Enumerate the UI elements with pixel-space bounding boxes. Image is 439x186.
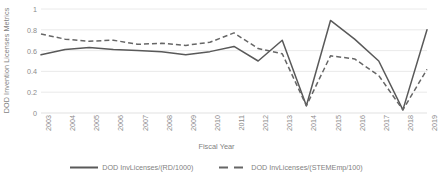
x-tick-label: 2010 [213, 115, 222, 131]
y-tick-label: 1 [33, 5, 37, 14]
x-tick-label: 2004 [68, 115, 77, 131]
legend-swatch-dashed-icon [219, 164, 247, 171]
x-tick-label: 2018 [406, 115, 415, 131]
x-tick-label: 2003 [44, 115, 53, 131]
x-tick-label: 2011 [237, 115, 246, 130]
x-tick-label: 2014 [309, 115, 318, 131]
x-tick-label: 2019 [430, 115, 439, 131]
plot-svg [41, 9, 427, 113]
plot-area [41, 9, 427, 113]
x-tick-label: 2007 [141, 115, 150, 131]
legend-swatch-solid-icon [70, 164, 98, 171]
x-tick-label: 2012 [261, 115, 270, 131]
legend-label-solid: DOD InvLicenses/(RD/1000) [102, 163, 193, 172]
y-tick-label: 0 [33, 109, 37, 118]
legend-label-dashed: DOD InvLicenses/(STEMEmp/100) [251, 163, 362, 172]
x-tick-label: 2016 [358, 115, 367, 131]
y-tick-label: 0.6 [27, 46, 37, 55]
x-tick-label: 2005 [92, 115, 101, 131]
y-tick-label: 0.4 [27, 67, 37, 76]
x-tick-label: 2015 [334, 115, 343, 131]
gridlines [41, 9, 427, 113]
x-tick-label: 2009 [189, 115, 198, 131]
legend-entry-dashed[interactable]: DOD InvLicenses/(STEMEmp/100) [219, 163, 362, 172]
x-tick-label: 2008 [165, 115, 174, 131]
y-tick-label: 0.2 [27, 88, 37, 97]
y-axis-title-text: DOD Invention Licenses Metrics [3, 7, 12, 113]
y-axis-title: DOD Invention Licenses Metrics [0, 0, 14, 120]
x-tick-label: 2013 [285, 115, 294, 131]
y-axis-tick-labels: 00.20.40.60.81 [14, 0, 40, 120]
y-tick-label: 0.8 [27, 25, 37, 34]
x-tick-label: 2017 [382, 115, 391, 131]
x-axis-title: Fiscal Year [0, 142, 433, 151]
x-tick-label: 2006 [116, 115, 125, 131]
x-axis-tick-labels: 2003200420052006200720082009201020112012… [41, 113, 427, 143]
series-line-1 [41, 20, 427, 109]
chart-legend: DOD InvLicenses/(RD/1000) DOD InvLicense… [0, 163, 433, 172]
legend-entry-solid[interactable]: DOD InvLicenses/(RD/1000) [70, 163, 193, 172]
series-layer [41, 20, 427, 109]
